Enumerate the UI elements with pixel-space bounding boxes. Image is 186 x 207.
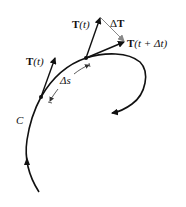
tangent-vector-next bbox=[86, 42, 124, 58]
label-t-left: T(t) bbox=[26, 55, 44, 68]
label-t-top: T(t) bbox=[72, 18, 90, 31]
curve-c bbox=[26, 54, 145, 192]
delta-s-tick-lower bbox=[48, 102, 52, 103]
label-t-next: T(t + Δt) bbox=[127, 37, 167, 50]
delta-s-arrow-lower bbox=[50, 89, 58, 101]
tangent-diagram: T(t) T(t) ΔT T(t + Δt) Δs C bbox=[0, 0, 186, 207]
label-delta-t: ΔT bbox=[110, 17, 125, 29]
label-curve-c: C bbox=[16, 114, 24, 126]
delta-s-arrow-upper bbox=[74, 65, 89, 74]
curve-direction-arrow-icon bbox=[24, 157, 30, 165]
label-delta-s: Δs bbox=[59, 74, 71, 86]
delta-s-tick-upper bbox=[89, 63, 90, 67]
